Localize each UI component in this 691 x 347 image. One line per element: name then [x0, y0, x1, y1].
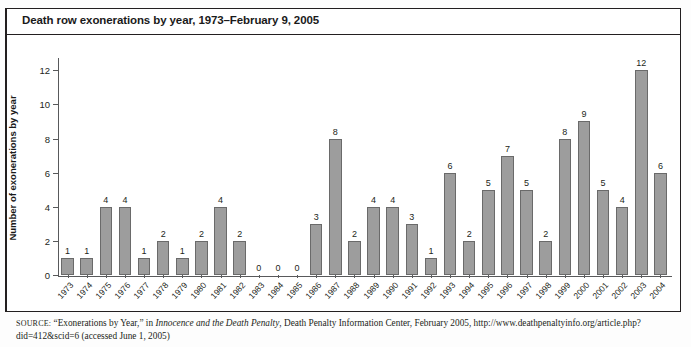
bar[interactable] — [578, 121, 591, 275]
y-axis-tick-mark — [53, 275, 58, 276]
x-axis-tick-mark — [316, 275, 317, 278]
bar[interactable] — [329, 139, 342, 276]
bar[interactable] — [406, 224, 419, 275]
bar-value-label: 5 — [482, 178, 495, 188]
bar-slot: 11992 — [425, 60, 438, 275]
x-axis-tick-mark — [106, 275, 107, 278]
bar[interactable] — [233, 241, 246, 275]
bar-value-label: 4 — [119, 195, 132, 205]
x-axis-tick-mark — [354, 275, 355, 278]
x-axis-tick-mark — [201, 275, 202, 278]
x-axis-tick-mark — [412, 275, 413, 278]
bar[interactable] — [635, 70, 648, 275]
y-axis-label: Number of exonerations by year — [7, 95, 18, 240]
bar-slot: 92000 — [578, 60, 591, 275]
bar-slot: 61993 — [444, 60, 457, 275]
bar-value-label: 1 — [61, 246, 74, 256]
bar[interactable] — [463, 241, 476, 275]
bar[interactable] — [176, 258, 189, 275]
x-axis-tick-mark — [221, 275, 222, 278]
bar[interactable] — [138, 258, 151, 275]
bar[interactable] — [597, 190, 610, 275]
bar-value-label: 2 — [157, 229, 170, 239]
bar-slot: 21998 — [539, 60, 552, 275]
bar-slot: 52001 — [597, 60, 610, 275]
bar-value-label: 5 — [520, 178, 533, 188]
x-axis-tick-mark — [527, 275, 528, 278]
source-text-before: “Exonerations by Year,” in — [51, 318, 155, 328]
bar-slot: 11974 — [80, 60, 93, 275]
bar[interactable] — [654, 173, 667, 275]
x-axis-tick-mark — [660, 275, 661, 278]
bar[interactable] — [539, 241, 552, 275]
plot-area: Number of exonerations by year 024681012… — [58, 60, 670, 275]
bar-value-label: 4 — [100, 195, 113, 205]
bar-slot: 51997 — [520, 60, 533, 275]
bar-slot: 62004 — [654, 60, 667, 275]
x-axis-tick-mark — [374, 275, 375, 278]
y-axis-tick-mark — [53, 104, 58, 105]
bar-value-label: 3 — [406, 212, 419, 222]
bar-value-label: 1 — [138, 246, 151, 256]
bar-slot: 01984 — [272, 60, 285, 275]
y-axis-tick-label: 6 — [45, 167, 50, 178]
x-axis-line — [58, 276, 672, 277]
x-axis-tick-mark — [125, 275, 126, 278]
x-axis-tick-mark — [622, 275, 623, 278]
bar[interactable] — [616, 207, 629, 275]
x-axis-tick-mark — [393, 275, 394, 278]
bar[interactable] — [310, 224, 323, 275]
bar[interactable] — [100, 207, 113, 275]
bar[interactable] — [348, 241, 361, 275]
x-axis-tick-mark — [163, 275, 164, 278]
bar-value-label: 5 — [597, 178, 610, 188]
x-axis-tick-mark — [240, 275, 241, 278]
bar-slot: 41976 — [119, 60, 132, 275]
bar[interactable] — [386, 207, 399, 275]
y-axis-tick-label: 0 — [45, 270, 50, 281]
x-axis-tick-mark — [507, 275, 508, 278]
x-axis-tick-mark — [144, 275, 145, 278]
x-axis-tick-mark — [565, 275, 566, 278]
x-axis-tick-mark — [469, 275, 470, 278]
y-axis-tick-label: 10 — [39, 99, 50, 110]
bar-slot: 01983 — [253, 60, 266, 275]
bar-value-label: 1 — [176, 246, 189, 256]
bar-value-label: 2 — [233, 229, 246, 239]
source-note: SOURCE: “Exonerations by Year,” in Innoc… — [16, 317, 676, 342]
bar-value-label: 3 — [310, 212, 323, 222]
x-axis-tick-mark — [87, 275, 88, 278]
bar[interactable] — [80, 258, 93, 275]
bar[interactable] — [559, 139, 572, 276]
bar-slot: 21994 — [463, 60, 476, 275]
y-axis-tick-label: 2 — [45, 235, 50, 246]
bar-value-label: 8 — [559, 127, 572, 137]
y-axis-tick-mark — [53, 139, 58, 140]
bar-slot: 21988 — [348, 60, 361, 275]
x-axis-tick-mark — [546, 275, 547, 278]
y-axis-tick-label: 8 — [45, 133, 50, 144]
bar[interactable] — [444, 173, 457, 275]
bar-slot: 11977 — [138, 60, 151, 275]
bar[interactable] — [367, 207, 380, 275]
x-axis-tick-mark — [431, 275, 432, 278]
source-publication-title: Innocence and the Death Penalty — [155, 318, 279, 328]
bar[interactable] — [119, 207, 132, 275]
figure-panel: Death row exonerations by year, 1973–Feb… — [0, 0, 691, 347]
bar[interactable] — [425, 258, 438, 275]
bar-slot: 11973 — [61, 60, 74, 275]
bar[interactable] — [520, 190, 533, 275]
bar-value-label: 4 — [616, 195, 629, 205]
bar[interactable] — [157, 241, 170, 275]
bar[interactable] — [482, 190, 495, 275]
bar-slot: 21982 — [233, 60, 246, 275]
bar-value-label: 9 — [578, 109, 591, 119]
bar-value-label: 0 — [253, 263, 266, 273]
bar[interactable] — [501, 156, 514, 275]
title-divider — [6, 34, 681, 35]
bar-slot: 42002 — [616, 60, 629, 275]
source-label: SOURCE: — [16, 319, 51, 328]
bar[interactable] — [195, 241, 208, 275]
bar[interactable] — [61, 258, 74, 275]
bar[interactable] — [214, 207, 227, 275]
